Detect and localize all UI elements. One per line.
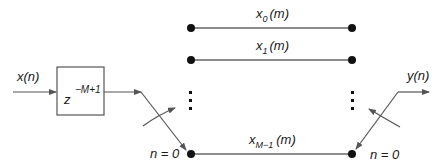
input-signal: x(n) — [13, 69, 56, 92]
channel-1: x1(m) — [187, 38, 356, 64]
right-n0-label: n = 0 — [370, 147, 400, 162]
channel-1-left-node — [187, 56, 195, 64]
output-signal: y(n) — [398, 68, 429, 92]
channel-0-right-node — [348, 24, 356, 32]
left-ellipsis — [189, 91, 192, 110]
delay-exponent: −M+1 — [75, 84, 101, 95]
delay-block: z −M+1 — [57, 67, 104, 115]
left-n0-label: n = 0 — [150, 146, 180, 161]
right-switch-arm — [356, 92, 398, 149]
channel-0-left-node — [187, 24, 195, 32]
channel-m-minus-1: xM−1(m) — [187, 132, 356, 158]
channel-1-label: x1(m) — [255, 38, 289, 56]
left-rotation-arrow-icon — [143, 108, 175, 126]
left-switch-arm — [141, 92, 186, 150]
channel-1-right-node — [348, 56, 356, 64]
delay-base: z — [63, 92, 71, 107]
input-label: x(n) — [16, 69, 39, 84]
right-commutator: n = 0 — [356, 92, 400, 162]
left-commutator: n = 0 — [141, 92, 186, 161]
polyphase-commutator-diagram: x(n) z −M+1 n = 0 x0(m) x1(m) — [0, 0, 440, 168]
channel-m-minus-1-left-node — [187, 150, 195, 158]
channel-0: x0(m) — [187, 6, 356, 32]
channel-0-label: x0(m) — [255, 6, 289, 24]
right-ellipsis — [351, 91, 354, 110]
output-label: y(n) — [406, 68, 429, 83]
channel-m-minus-1-label: xM−1(m) — [248, 132, 296, 150]
channel-m-minus-1-right-node — [348, 150, 356, 158]
